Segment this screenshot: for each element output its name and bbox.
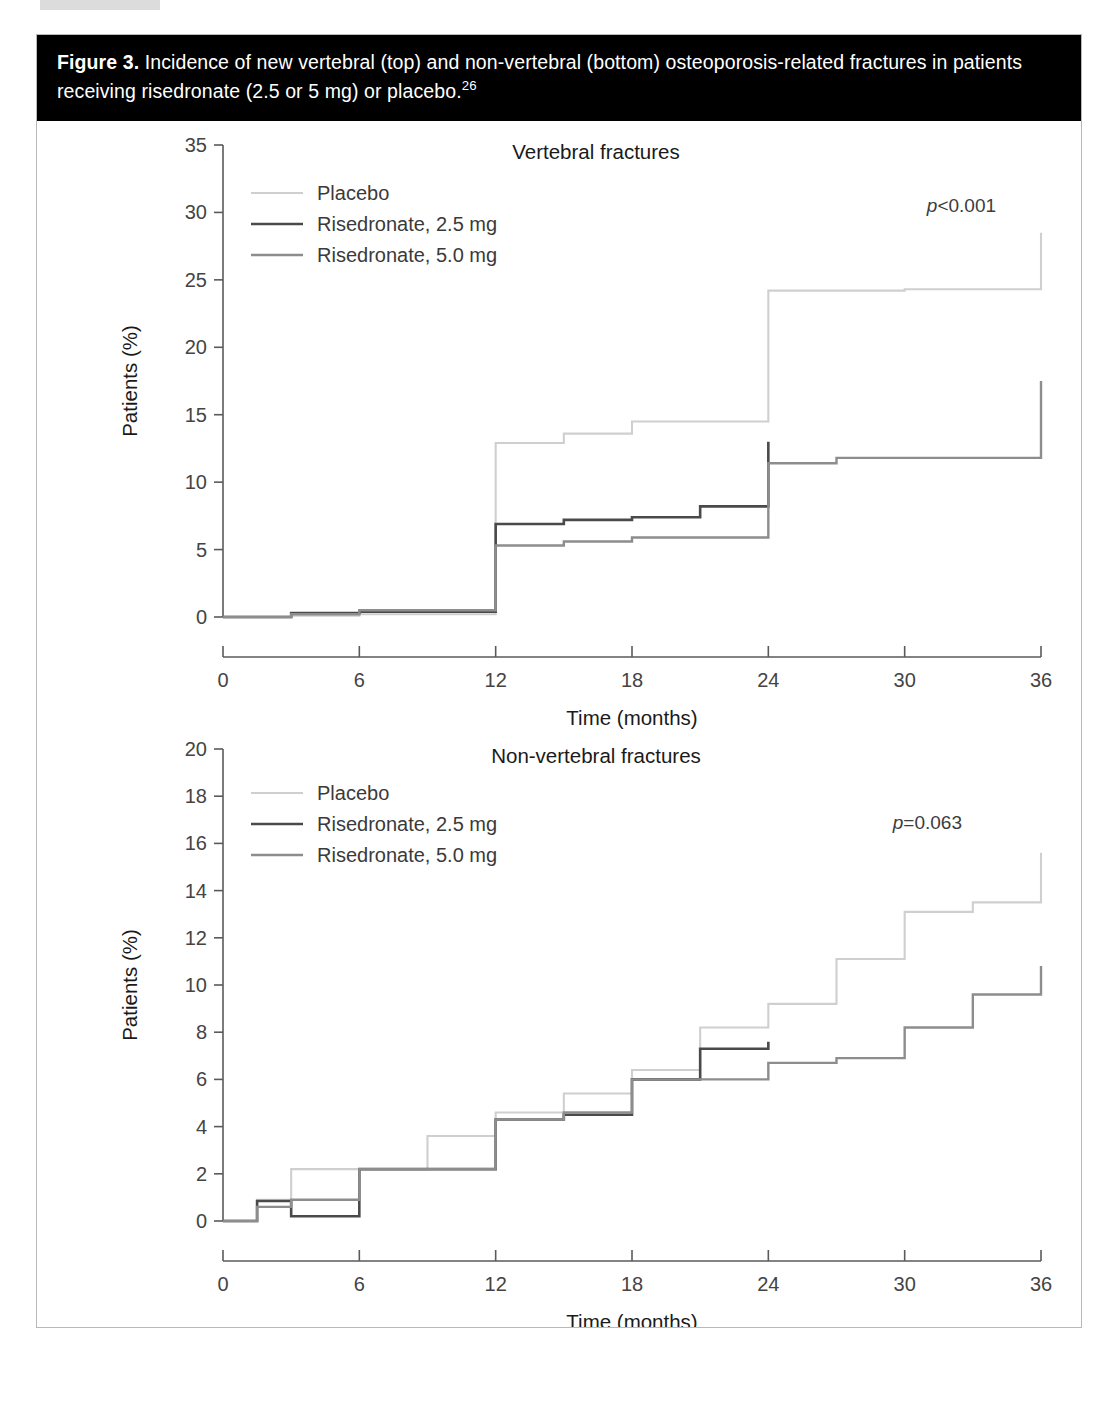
p-value-number: =0.063 [903,812,962,833]
legend-label-risedronate_5_0: Risedronate, 5.0 mg [317,844,497,866]
y-tick-label: 35 [185,134,207,156]
y-tick-label: 16 [185,832,207,854]
figure-caption-bar: Figure 3. Incidence of new vertebral (to… [37,35,1081,121]
y-tick-label: 4 [196,1116,207,1138]
y-tick-label: 12 [185,927,207,949]
legend-label-risedronate_5_0: Risedronate, 5.0 mg [317,244,497,266]
x-tick-label: 0 [217,669,228,691]
y-tick-label: 18 [185,785,207,807]
chart-panel-non-vertebral: 02468101214161820Patients (%)06121824303… [118,738,1052,1327]
charts-area: 05101520253035Patients (%)061218243036Ti… [37,127,1081,1327]
y-axis: 05101520253035Patients (%) [118,134,223,628]
x-tick-label: 18 [621,1273,643,1295]
figure-container: Figure 3. Incidence of new vertebral (to… [36,34,1082,1328]
legend-label-risedronate_2_5: Risedronate, 2.5 mg [317,213,497,235]
x-axis: 061218243036Time (months) [217,1250,1052,1327]
legend: PlaceboRisedronate, 2.5 mgRisedronate, 5… [251,182,497,266]
series-group [223,233,1041,617]
y-tick-label: 30 [185,201,207,223]
panel-title: Vertebral fractures [512,140,680,163]
y-tick-label: 20 [185,738,207,760]
figure-page: Figure 3. Incidence of new vertebral (to… [0,0,1118,1408]
x-tick-label: 30 [894,1273,916,1295]
y-tick-label: 25 [185,269,207,291]
y-tick-label: 14 [185,880,207,902]
series-line-placebo [223,233,1041,617]
x-tick-label: 36 [1030,1273,1052,1295]
x-tick-label: 0 [217,1273,228,1295]
y-tick-label: 6 [196,1068,207,1090]
x-tick-label: 36 [1030,669,1052,691]
x-tick-label: 12 [485,669,507,691]
legend-label-placebo: Placebo [317,782,389,804]
legend: PlaceboRisedronate, 2.5 mgRisedronate, 5… [251,782,497,866]
p-value-number: <0.001 [937,195,996,216]
y-tick-label: 0 [196,606,207,628]
figure-label: Figure 3. [57,51,139,73]
x-axis-title: Time (months) [566,706,697,729]
panel-title: Non-vertebral fractures [491,744,701,767]
y-tick-label: 5 [196,539,207,561]
y-tick-label: 10 [185,974,207,996]
p-value-symbol: p [892,812,904,833]
y-tick-label: 15 [185,404,207,426]
series-group [223,853,1041,1221]
series-line-risedronate_5_0 [223,966,1041,1221]
y-tick-label: 20 [185,336,207,358]
y-axis-title: Patients (%) [118,325,141,437]
scan-artifact-bar [40,0,160,10]
x-axis: 061218243036Time (months) [217,646,1052,729]
p-value-annotation: p<0.001 [926,195,996,216]
x-tick-label: 24 [757,669,779,691]
y-tick-label: 2 [196,1163,207,1185]
charts-svg: 05101520253035Patients (%)061218243036Ti… [37,127,1081,1327]
figure-reference-marker: 26 [462,78,477,93]
x-tick-label: 6 [354,1273,365,1295]
y-axis-title: Patients (%) [118,929,141,1041]
y-axis: 02468101214161820Patients (%) [118,738,223,1232]
x-axis-title: Time (months) [566,1310,697,1327]
legend-label-risedronate_2_5: Risedronate, 2.5 mg [317,813,497,835]
y-tick-label: 10 [185,471,207,493]
x-tick-label: 6 [354,669,365,691]
legend-label-placebo: Placebo [317,182,389,204]
series-line-risedronate_5_0 [223,381,1041,617]
y-tick-label: 0 [196,1210,207,1232]
figure-caption-text: Incidence of new vertebral (top) and non… [57,51,1022,101]
x-tick-label: 18 [621,669,643,691]
p-value-annotation: p=0.063 [892,812,962,833]
p-value-symbol: p [926,195,938,216]
y-tick-label: 8 [196,1021,207,1043]
series-line-placebo [223,853,1041,1221]
x-tick-label: 12 [485,1273,507,1295]
chart-panel-vertebral: 05101520253035Patients (%)061218243036Ti… [118,134,1052,729]
x-tick-label: 30 [894,669,916,691]
x-tick-label: 24 [757,1273,779,1295]
